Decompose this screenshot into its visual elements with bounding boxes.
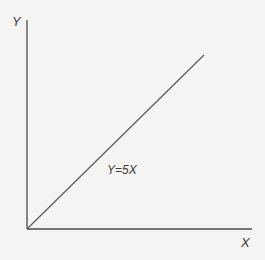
chart-canvas: Y X Y=5X [0, 0, 265, 260]
x-axis-label: X [241, 236, 250, 249]
series-line-y-equals-5x [27, 55, 204, 229]
y-axis-label: Y [12, 15, 21, 28]
series-annotation: Y=5X [107, 164, 137, 176]
plot-area [0, 0, 265, 260]
